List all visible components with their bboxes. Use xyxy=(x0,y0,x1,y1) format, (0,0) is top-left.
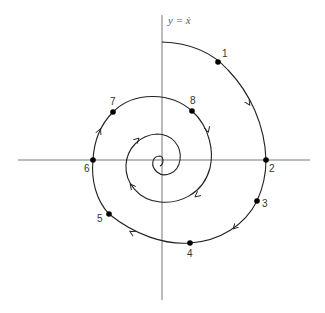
y-axis-label: y = ẋ xyxy=(167,14,191,26)
point-3: 3 xyxy=(254,198,268,209)
point-8: 8 xyxy=(189,95,196,114)
phase-portrait: y = ẋ 1 2 3 4 5 6 7 8 xyxy=(0,0,325,313)
svg-text:1: 1 xyxy=(222,48,228,59)
point-5: 5 xyxy=(97,211,112,224)
svg-text:8: 8 xyxy=(190,95,196,106)
spiral-trajectory xyxy=(93,42,266,243)
svg-text:6: 6 xyxy=(84,163,90,174)
point-7: 7 xyxy=(110,96,116,115)
point-4: 4 xyxy=(187,240,193,259)
svg-text:4: 4 xyxy=(187,248,193,259)
svg-text:2: 2 xyxy=(269,163,275,174)
svg-text:5: 5 xyxy=(97,213,103,224)
point-1: 1 xyxy=(215,48,228,65)
arrow-icon xyxy=(196,192,201,196)
svg-text:7: 7 xyxy=(110,96,116,107)
svg-text:3: 3 xyxy=(262,198,268,209)
